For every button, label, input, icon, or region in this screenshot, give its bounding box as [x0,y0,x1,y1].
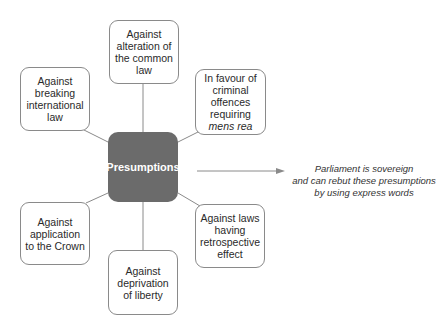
sovereignty-note: Parliament is sovereign and can rebut th… [288,163,440,199]
node-label: Against laws having retrospective effect [200,212,260,260]
node-application-to-crown: Against application to the Crown [20,202,90,265]
central-node-presumptions: Presumptions [108,132,178,202]
note-line-2: and can rebut these presumptions [288,175,440,187]
note-line-3: by using express words [288,187,440,199]
node-deprivation-of-liberty: Against deprivation of liberty [108,250,178,315]
node-mens-rea: In favour of criminal offences requiring… [195,69,266,135]
node-retrospective-effect: Against laws having retrospective effect [195,204,265,268]
central-node-label: Presumptions [106,161,179,173]
node-label-italic: mens rea [209,120,253,132]
node-alteration-common-law: Against alteration of the common law [109,20,179,84]
node-breaking-international-law: Against breaking international law [20,67,90,131]
note-line-1: Parliament is sovereign [288,163,440,175]
node-label: In favour of criminal offences requiring [204,72,257,120]
node-label: Against deprivation of liberty [117,265,168,301]
node-label: Against alteration of the common law [115,28,173,76]
arrow-head-icon [276,168,285,174]
node-label: Against breaking international law [26,75,83,123]
node-label: Against application to the Crown [25,216,85,252]
